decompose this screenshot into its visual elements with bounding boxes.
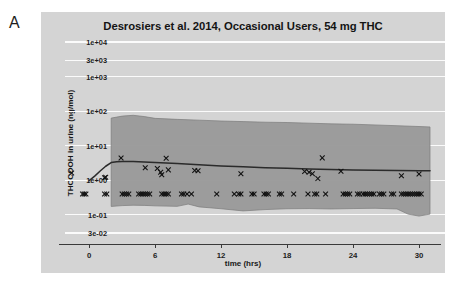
plot-panel: Desrosiers et al. 2014, Occasional Users…: [41, 12, 445, 273]
plot-area: 1e+043e+031e+031e+021e+011e+001e-013e-02…: [41, 12, 445, 273]
figure-panel-a: A Desrosiers et al. 2014, Occasional Use…: [0, 0, 462, 285]
panel-letter: A: [9, 14, 20, 32]
prediction-interval-band: [111, 115, 430, 216]
data-layer: [41, 12, 445, 273]
data-point-marker: [69, 171, 74, 176]
